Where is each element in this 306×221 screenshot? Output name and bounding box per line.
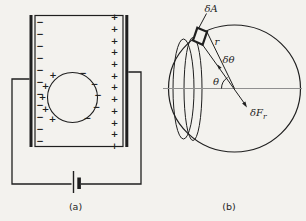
charge-sign: + [111,106,119,116]
delta-angle-label: δθ [222,54,234,65]
charge-sign: + [111,59,119,69]
area-element-label: δA [204,3,217,14]
charge-sign: + [42,104,50,114]
charge-sign: + [111,47,119,57]
charge-sign: − [36,53,44,63]
panel-a-label: (a) [69,201,82,212]
charge-sign: − [91,79,99,89]
sphere-induced-minus: −−−−− [79,68,102,123]
panel-a: −−−−−−−−−−− ++++++++++++ +++++ −−−−− (a) [12,12,141,212]
charge-sign: − [93,102,101,112]
radius-label: r [215,36,221,47]
theta-label: θ [213,76,219,87]
right-plate [125,15,128,147]
charge-sign: − [94,90,102,100]
charge-sign: + [111,12,119,22]
charge-sign: + [111,24,119,34]
charge-sign: + [111,118,119,128]
charge-sign: − [36,136,44,146]
figure-diagram: −−−−−−−−−−− ++++++++++++ +++++ −−−−− (a)… [0,0,306,221]
panel-b-label: (b) [222,201,235,212]
force-label: δFr [250,107,267,122]
physics-figure: −−−−−−−−−−− ++++++++++++ +++++ −−−−− (a)… [0,0,306,221]
area-label-leader-line [199,14,207,29]
charge-sign: − [36,17,44,27]
charge-sign: + [111,82,119,92]
charge-sign: − [36,124,44,134]
force-arrowhead [242,101,247,107]
battery-short-plate [77,178,81,190]
charge-sign: + [111,141,119,151]
charge-sign: + [42,81,50,91]
panel-b: δA r δθ θ δFr (b) [163,3,302,213]
left-plate [30,15,33,147]
charge-sign: − [84,113,92,123]
radius-line [202,44,245,104]
force-label-subscript: r [263,112,267,121]
charge-sign: − [36,112,44,122]
charge-sign: + [49,70,57,80]
charge-sign: + [111,129,119,139]
charge-sign: + [111,36,119,46]
charge-sign: + [39,92,47,102]
charge-sign: + [111,94,119,104]
plus-signs-column: ++++++++++++ [111,12,119,151]
charge-sign: + [111,71,119,81]
charge-sign: − [36,29,44,39]
battery-icon [74,171,81,193]
charge-sign: + [49,114,57,124]
area-element-patch [193,28,207,45]
force-label-main: δF [250,107,264,118]
charge-sign: − [36,41,44,51]
charge-sign: − [36,65,44,75]
charge-sign: − [79,68,87,78]
